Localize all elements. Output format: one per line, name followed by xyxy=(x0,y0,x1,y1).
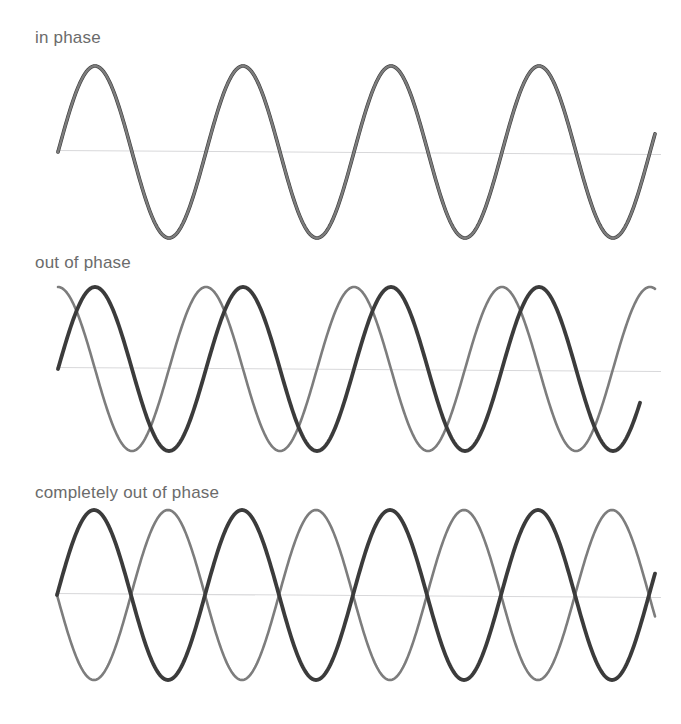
wave-gray-out-of-phase xyxy=(58,287,655,451)
wave-dark-in-phase xyxy=(58,66,655,238)
wave-plot-out-of-phase xyxy=(0,0,681,724)
wave-gray-completely-out-of-phase xyxy=(57,510,655,680)
baseline-completely-out-of-phase xyxy=(55,594,661,598)
panel-label-out-of-phase: out of phase xyxy=(35,253,131,273)
panel-label-in-phase: in phase xyxy=(35,28,101,48)
wave-dark-out-of-phase xyxy=(58,287,640,451)
wave-plot-in-phase xyxy=(0,0,681,724)
phase-diagram-figure: in phaseout of phasecompletely out of ph… xyxy=(0,0,681,724)
wave-plot-completely-out-of-phase xyxy=(0,0,681,724)
baseline-in-phase xyxy=(56,151,661,155)
baseline-out-of-phase xyxy=(56,368,661,372)
panel-label-completely-out-of-phase: completely out of phase xyxy=(35,483,219,503)
wave-dark-completely-out-of-phase xyxy=(57,510,655,680)
wave-gray-in-phase xyxy=(58,66,655,238)
